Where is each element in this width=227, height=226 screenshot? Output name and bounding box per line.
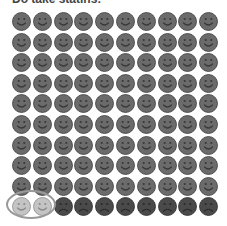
smiley-face-icon [95,115,114,134]
smiley-face-icon [74,33,93,52]
smiley-face-icon [12,156,31,175]
smiley-face-icon [33,115,52,134]
smiley-face-icon [178,53,197,72]
smiley-face-icon [137,53,156,72]
smiley-face-icon [116,12,135,31]
smiley-face-icon [12,74,31,93]
smiley-face-icon [116,177,135,196]
smiley-face-icon [12,12,31,31]
smiley-face-icon [158,156,177,175]
smiley-face-icon [74,177,93,196]
sad-face-icon [95,197,114,216]
smiley-face-icon [95,33,114,52]
smiley-face-icon [137,177,156,196]
smiley-face-icon [116,33,135,52]
smiley-face-icon [54,12,73,31]
smiley-face-icon [178,33,197,52]
smiley-face-icon [116,136,135,155]
smiley-face-icon [137,74,156,93]
smiley-face-icon [158,33,177,52]
smiley-face-icon [137,156,156,175]
smiley-face-icon [199,177,218,196]
smiley-face-icon [199,156,218,175]
smiley-face-icon [12,115,31,134]
sad-face-icon [199,197,218,216]
sad-face-icon [137,197,156,216]
smiley-face-icon [137,115,156,134]
smiley-face-icon [95,136,114,155]
sad-face-icon [54,197,73,216]
smiley-face-icon [137,12,156,31]
smiley-face-icon [137,33,156,52]
smiley-face-icon [116,94,135,113]
smiley-face-icon [178,156,197,175]
sad-face-icon [178,197,197,216]
smiley-face-icon [137,136,156,155]
smiley-face-icon [158,74,177,93]
smiley-face-icon [116,156,135,175]
smiley-face-icon [158,12,177,31]
smiley-face-icon [33,74,52,93]
smiley-face-icon [33,94,52,113]
smiley-face-icon [74,74,93,93]
smiley-face-icon [199,94,218,113]
smiley-face-icon [95,12,114,31]
smiley-face-icon [95,53,114,72]
smiley-face-icon [178,74,197,93]
smiley-face-icon [158,94,177,113]
smiley-face-icon [116,74,135,93]
smiley-face-icon [158,177,177,196]
smiley-face-icon [178,12,197,31]
smiley-face-icon [158,136,177,155]
smiley-face-icon [199,115,218,134]
icon-array-grid [12,12,220,218]
smiley-face-icon [158,53,177,72]
smiley-face-icon [199,53,218,72]
highlight-ellipse [6,190,56,219]
smiley-face-icon [178,94,197,113]
smiley-face-icon [178,115,197,134]
smiley-face-icon [95,94,114,113]
smiley-face-icon [54,74,73,93]
smiley-face-icon [199,12,218,31]
smiley-face-icon [199,136,218,155]
smiley-face-icon [178,177,197,196]
smiley-face-icon [12,136,31,155]
smiley-face-icon [33,12,52,31]
smiley-face-icon [74,115,93,134]
smiley-face-icon [54,177,73,196]
smiley-face-icon [95,156,114,175]
smiley-face-icon [54,156,73,175]
smiley-face-icon [33,156,52,175]
sad-face-icon [158,197,177,216]
smiley-face-icon [12,33,31,52]
smiley-face-icon [199,33,218,52]
smiley-face-icon [12,53,31,72]
smiley-face-icon [95,177,114,196]
smiley-face-icon [74,53,93,72]
smiley-face-icon [74,156,93,175]
smiley-face-icon [54,115,73,134]
smiley-face-icon [178,136,197,155]
smiley-face-icon [33,53,52,72]
sad-face-icon [116,197,135,216]
sad-face-icon [74,197,93,216]
smiley-face-icon [199,74,218,93]
smiley-face-icon [54,33,73,52]
smiley-face-icon [116,115,135,134]
smiley-face-icon [54,53,73,72]
chart-title: Do take statins: [12,0,101,6]
smiley-face-icon [137,94,156,113]
smiley-face-icon [95,74,114,93]
smiley-face-icon [158,115,177,134]
smiley-face-icon [74,12,93,31]
smiley-face-icon [12,94,31,113]
smiley-face-icon [74,94,93,113]
smiley-face-icon [116,53,135,72]
smiley-face-icon [33,136,52,155]
smiley-face-icon [33,33,52,52]
smiley-face-icon [54,94,73,113]
smiley-face-icon [54,136,73,155]
smiley-face-icon [74,136,93,155]
